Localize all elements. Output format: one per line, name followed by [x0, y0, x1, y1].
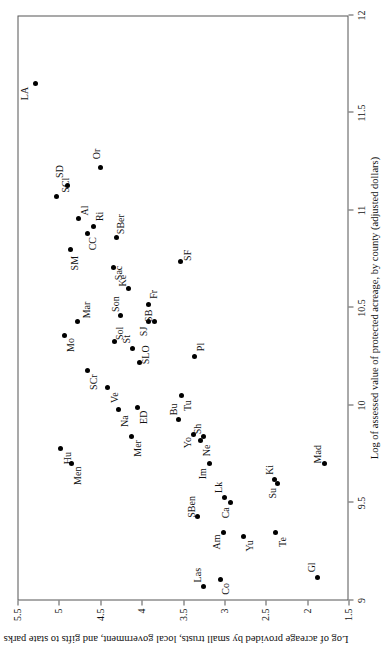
data-point [240, 533, 245, 538]
x-axis-tick-label: 12 [356, 10, 366, 20]
data-point-label: Ve [109, 392, 119, 403]
data-point-label: Te [277, 537, 287, 547]
data-point [274, 481, 279, 486]
data-point [221, 529, 226, 534]
x-axis-tick [348, 404, 353, 405]
data-point [130, 346, 135, 351]
data-point [85, 367, 90, 372]
data-point [76, 215, 81, 220]
x-axis-tick [348, 209, 353, 210]
x-axis-tick [348, 112, 353, 113]
y-axis-tick [348, 600, 349, 605]
x-axis-tick-label: 10.5 [356, 299, 366, 317]
data-point [33, 81, 38, 86]
y-axis-tick-label: 3 [219, 608, 229, 613]
data-point-label: Las [192, 567, 202, 581]
x-axis-tick [348, 307, 353, 308]
x-axis-tick-label: 10 [356, 400, 366, 410]
scatter-figure: 99.51010.51111.5121.522.533.544.555.5 LA… [0, 0, 385, 662]
data-point [105, 385, 110, 390]
data-point [273, 529, 278, 534]
data-point-label: SF [182, 249, 192, 260]
data-point-label: Fr [148, 289, 158, 298]
data-point-label: CC [87, 236, 97, 249]
data-point-label: SJ [138, 326, 148, 335]
data-point-label: SBer [115, 214, 125, 234]
data-point [201, 584, 206, 589]
data-point-label: Mer [132, 440, 142, 457]
x-axis-tick-label: 9.5 [356, 496, 366, 509]
data-point [64, 182, 69, 187]
data-point [206, 461, 211, 466]
data-point-label: Ne [201, 444, 211, 456]
data-point-label: ED [138, 410, 148, 423]
x-axis-tick-label: 9 [356, 598, 366, 603]
data-point-label: Yu [244, 540, 254, 551]
x-axis-tick [348, 14, 353, 15]
y-axis-tick-label: 5 [53, 608, 63, 613]
data-point-label: Ri [94, 211, 104, 220]
y-axis-tick [141, 600, 142, 605]
data-point-label: LA [19, 86, 29, 99]
data-point [58, 445, 63, 450]
data-point [67, 247, 72, 252]
y-axis-tick-label: 4 [136, 608, 146, 613]
data-point-label: Mo [65, 338, 75, 352]
data-point-label: SD [54, 165, 64, 178]
data-point-label: Sh [192, 423, 202, 434]
data-point [114, 235, 119, 240]
data-point-label: St [121, 335, 131, 343]
data-point [74, 319, 79, 324]
data-point-label: Pl [195, 342, 205, 350]
data-point-label: Son [110, 296, 120, 312]
data-point [62, 332, 67, 337]
data-point-label: Ki [264, 464, 274, 474]
y-axis-tick [58, 600, 59, 605]
y-axis-tick [265, 600, 266, 605]
y-axis-tick-label: 2 [302, 608, 312, 613]
y-axis-tick [183, 600, 184, 605]
data-point-label: Bu [168, 403, 178, 415]
data-point [228, 500, 233, 505]
y-axis-tick-label: 1.5 [343, 608, 353, 621]
data-point [145, 301, 150, 306]
y-axis-tick-label: 2.5 [260, 608, 270, 621]
data-point [221, 494, 226, 499]
x-axis-tick-label: 11.5 [356, 104, 366, 121]
chart-canvas: 99.51010.51111.5121.522.533.544.555.5 LA… [0, 0, 385, 662]
y-axis-tick-label: 4.5 [95, 608, 105, 621]
y-axis-tick [224, 600, 225, 605]
data-point [192, 354, 197, 359]
data-point [217, 576, 222, 581]
data-point-label: Na [119, 415, 129, 427]
data-point [53, 194, 58, 199]
y-axis-tick [100, 600, 101, 605]
data-point-label: Ca [220, 507, 230, 518]
plot-area [17, 15, 348, 600]
data-point [178, 393, 183, 398]
data-point-label: Lk [213, 481, 223, 492]
data-point-label: Su [267, 487, 277, 498]
data-point-label: Am [211, 534, 221, 549]
data-point [129, 434, 134, 439]
data-point [97, 165, 102, 170]
data-point-label: Mar [81, 301, 91, 318]
data-point-label: SBen [186, 496, 196, 518]
data-point [91, 223, 96, 228]
x-axis-title: Log of assessed value of protected acrea… [368, 15, 379, 600]
data-point [115, 406, 120, 411]
data-point-label: Co [220, 582, 230, 594]
data-point-label: SLO [140, 345, 150, 364]
data-point-label: SCr [88, 374, 98, 390]
data-point [175, 416, 180, 421]
data-point-label: SM [69, 255, 79, 269]
data-point [314, 574, 319, 579]
data-point [201, 434, 206, 439]
data-point [134, 404, 139, 409]
data-point-label: Im [197, 468, 207, 479]
y-axis-tick [17, 600, 18, 605]
x-axis-tick-label: 11 [356, 205, 366, 215]
y-axis-title: Log of acreage provided by small trusts,… [3, 633, 348, 644]
y-axis-tick-label: 3.5 [178, 608, 188, 621]
data-point-label: Tu [182, 400, 192, 411]
